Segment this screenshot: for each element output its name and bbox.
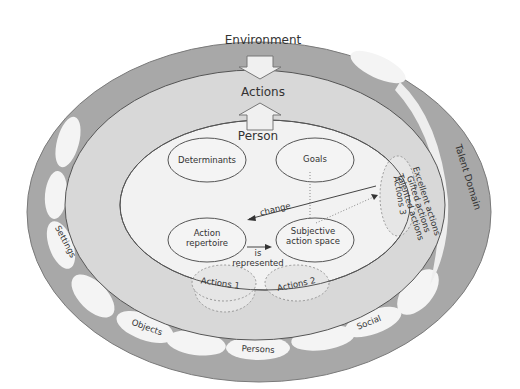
actions-label: Actions <box>241 85 285 99</box>
person-label: Person <box>238 129 278 143</box>
subjective-label-2: action space <box>286 236 340 246</box>
is-represented-label-1: is <box>255 248 262 258</box>
is-represented-label-2: represented <box>232 258 283 268</box>
talent-model-diagram: Environment Actions Person Determinants … <box>0 0 520 389</box>
subjective-label-1: Subjective <box>291 226 335 236</box>
action-repertoire-label-2: repertoire <box>186 238 228 248</box>
action-repertoire-label-1: Action <box>194 228 221 238</box>
goals-label: Goals <box>303 154 327 164</box>
determinants-label: Determinants <box>178 155 237 165</box>
persons-label: Persons <box>241 343 275 355</box>
environment-label: Environment <box>225 33 302 47</box>
